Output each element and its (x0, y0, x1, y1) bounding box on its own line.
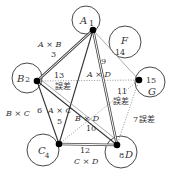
edge-a-d-number: 9 (101, 57, 106, 66)
edge-b-d-label: B × D (74, 114, 100, 123)
edge-g-d-label: 誤差 (139, 114, 155, 124)
edge-a-c-label: A × C (47, 106, 72, 115)
edge-a-b-inner (37, 30, 93, 81)
node-b-dot (34, 78, 41, 85)
node-b-number: 2 (25, 75, 30, 84)
edge-b-g-label: 誤差 (55, 81, 71, 91)
node-a-number: 1 (89, 19, 94, 28)
edge-a-g-label: 誤差 (113, 96, 129, 106)
edge-b-c-number: 6 (37, 106, 42, 115)
edge-c-d-number: 12 (80, 146, 90, 155)
node-b-letter: B (16, 73, 24, 84)
node-c-dot (56, 141, 63, 148)
edge-a-d-inner (93, 30, 117, 145)
node-f-letter: F (120, 35, 129, 46)
edge-g-d-number: 7 (133, 115, 138, 124)
node-d-letter: D (124, 149, 133, 160)
edge-b-d-number: 10 (86, 124, 96, 133)
node-g-letter: G (148, 86, 156, 97)
node-d-dot (114, 142, 121, 149)
edge-c-d-label: C × D (74, 157, 99, 166)
edge-b-g (37, 80, 139, 81)
edge-b-g-number: 13 (54, 71, 64, 80)
edge-a-d-label: A × D (86, 70, 112, 79)
node-c-number: 4 (45, 152, 50, 160)
edge-a-b-label: A × B (37, 40, 62, 49)
node-f-number: 14 (115, 48, 125, 57)
edge-a-g-number: 11 (117, 87, 127, 96)
edge-b-c-label: B × C (5, 109, 30, 118)
edge-a-b-number: 3 (51, 50, 56, 59)
node-g-number: 15 (146, 76, 156, 85)
edge-a-c-number: 5 (57, 117, 62, 126)
node-d-number: 8 (119, 151, 124, 160)
linear-graph-diagram: A 1 B 2 C 4 8 D F 14 15 G A × B 3 B × C … (0, 0, 174, 175)
node-a-letter: A (79, 15, 87, 26)
node-g-dot (136, 77, 143, 84)
